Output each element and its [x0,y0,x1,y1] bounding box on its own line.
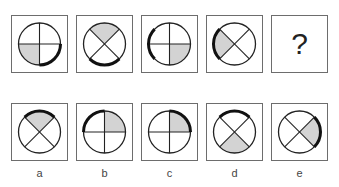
option-a-panel[interactable] [11,103,68,161]
option-d-panel[interactable] [206,103,263,161]
circle-x-figure [207,104,262,160]
question-panel-3 [141,15,198,73]
option-b-panel[interactable] [76,103,133,161]
circle-plus-figure [142,104,197,160]
circle-x-figure [272,104,327,160]
circle-plus-figure [77,104,132,160]
question-mark: ? [272,16,327,72]
question-panel-4 [206,15,263,73]
option-e-panel[interactable] [271,103,328,161]
question-panel-1 [11,15,68,73]
circle-x-figure [207,16,262,72]
option-e-label: e [271,167,328,179]
option-b-label: b [76,167,133,179]
question-panel-2 [76,15,133,73]
option-c-label: c [141,167,198,179]
circle-x-figure [12,104,67,160]
circle-plus-figure [142,16,197,72]
circle-x-figure [77,16,132,72]
circle-plus-figure [12,16,67,72]
option-d-label: d [206,167,263,179]
option-a-label: a [11,167,68,179]
question-panel-unknown: ? [271,15,328,73]
option-c-panel[interactable] [141,103,198,161]
